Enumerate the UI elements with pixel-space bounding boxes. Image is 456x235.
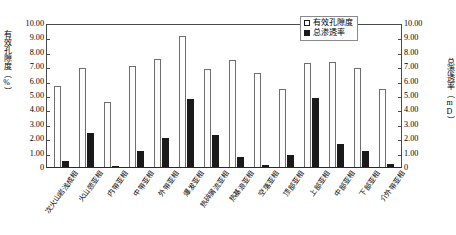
bar-porosity: [279, 89, 286, 167]
bar-porosity: [354, 68, 361, 167]
bar-group: [249, 25, 274, 167]
legend-item-porosity: 有效孔隙度: [304, 18, 353, 28]
x-axis-category-labels: 次火山岩浅成相火山颈亚相内带亚相中带亚相外带亚相爆发亚相热碎屑流亚相热基浪亚相空…: [46, 169, 402, 231]
tick-label: 5.00: [404, 92, 418, 100]
x-axis-label: 外带亚相: [156, 169, 180, 198]
x-axis-label: 空落亚相: [256, 169, 280, 198]
axis-tick-mark: [398, 126, 401, 127]
axis-tick-mark: [47, 68, 50, 69]
bar-group: [374, 25, 399, 167]
legend-swatch-filled-icon: [304, 30, 310, 36]
bar-permeability: [62, 161, 69, 167]
bar-porosity: [304, 63, 311, 167]
bar-porosity: [179, 36, 186, 167]
y-axis-right-title: 总渗透率（mD）: [444, 58, 455, 168]
axis-tick-mark: [398, 54, 401, 55]
axis-tick-mark: [398, 83, 401, 84]
x-axis-label: 上部亚相: [306, 169, 330, 198]
legend-item-permeability: 总渗透率: [304, 28, 353, 38]
tick-label: 8.00: [404, 49, 418, 57]
tick-label: 3.00: [404, 121, 418, 129]
legend-label-permeability: 总渗透率: [313, 28, 345, 38]
tick-label: 7.00: [404, 63, 418, 71]
x-axis-label: 爆发亚相: [181, 169, 205, 198]
bar-group: [349, 25, 374, 167]
tick-label: 6.00: [404, 78, 418, 86]
tick-label: 10.00: [404, 20, 422, 28]
legend: 有效孔隙度 总渗透率: [300, 16, 358, 41]
bar-group: [49, 25, 74, 167]
tick-label: 10.00: [26, 20, 44, 28]
bar-porosity: [379, 89, 386, 167]
bar-group: [324, 25, 349, 167]
bar-porosity: [104, 102, 111, 167]
bar-permeability: [187, 99, 194, 167]
tick-label: 8.00: [30, 49, 44, 57]
axis-tick-mark: [47, 111, 50, 112]
bar-porosity: [79, 68, 86, 167]
axis-tick-mark: [398, 68, 401, 69]
axis-tick-mark: [47, 155, 50, 156]
bar-group: [224, 25, 249, 167]
chart-container: 有效孔隙度（%） 总渗透率（mD） 10.009.008.007.006.005…: [0, 0, 456, 235]
x-axis-label: 内带亚相: [105, 169, 129, 198]
axis-tick-mark: [47, 126, 50, 127]
tick-label: 1.00: [30, 150, 44, 158]
bar-group: [199, 25, 224, 167]
bar-permeability: [237, 157, 244, 167]
axis-tick-mark: [398, 155, 401, 156]
tick-label: 3.00: [30, 121, 44, 129]
axis-tick-mark: [47, 39, 50, 40]
bar-group: [299, 25, 324, 167]
bar-porosity: [229, 60, 236, 167]
y-axis-left-ticks: 10.009.008.007.006.005.004.003.002.001.0…: [12, 20, 44, 170]
tick-label: 6.00: [30, 78, 44, 86]
x-axis-label: 中部亚相: [332, 169, 356, 198]
bar-permeability: [212, 135, 219, 167]
legend-label-porosity: 有效孔隙度: [313, 18, 353, 28]
x-axis-label: 介外带亚相: [378, 169, 406, 203]
tick-label: 9.00: [30, 34, 44, 42]
tick-label: 2.00: [404, 135, 418, 143]
bar-series-group: [47, 25, 401, 167]
bar-group: [274, 25, 299, 167]
bar-permeability: [112, 166, 119, 167]
tick-label: 1.00: [404, 150, 418, 158]
tick-label: 2.00: [30, 135, 44, 143]
bar-porosity: [154, 59, 161, 167]
x-axis-label: 热基浪亚相: [227, 169, 255, 203]
axis-tick-mark: [47, 54, 50, 55]
bar-porosity: [329, 62, 336, 167]
x-axis-label: 中带亚相: [130, 169, 154, 198]
bar-group: [149, 25, 174, 167]
figure-caption: [0, 228, 456, 235]
axis-tick-mark: [47, 140, 50, 141]
axis-tick-mark: [47, 83, 50, 84]
bar-permeability: [312, 98, 319, 167]
plot-area: [46, 24, 402, 168]
x-axis-label: 下部亚相: [357, 169, 381, 198]
tick-label: 7.00: [30, 63, 44, 71]
x-axis-label: 火山颈亚相: [76, 169, 104, 203]
bar-porosity: [204, 69, 211, 167]
bar-group: [74, 25, 99, 167]
bar-group: [99, 25, 124, 167]
bar-permeability: [287, 155, 294, 167]
bar-permeability: [387, 164, 394, 167]
axis-tick-mark: [398, 111, 401, 112]
tick-label: 9.00: [404, 34, 418, 42]
bar-group: [124, 25, 149, 167]
legend-swatch-open-icon: [304, 20, 310, 26]
tick-label: 4.00: [404, 106, 418, 114]
bar-permeability: [262, 165, 269, 167]
tick-label: 0: [404, 164, 408, 172]
tick-label: 5.00: [30, 92, 44, 100]
axis-tick-mark: [398, 140, 401, 141]
y-axis-right-ticks: 10.009.008.007.006.005.004.003.002.001.0…: [404, 20, 436, 170]
y-axis-left-title: 有效孔隙度（%）: [1, 30, 12, 160]
axis-tick-mark: [398, 39, 401, 40]
axis-tick-mark: [47, 97, 50, 98]
bar-permeability: [162, 138, 169, 167]
bar-group: [174, 25, 199, 167]
x-axis-label: 顶部亚相: [281, 169, 305, 198]
